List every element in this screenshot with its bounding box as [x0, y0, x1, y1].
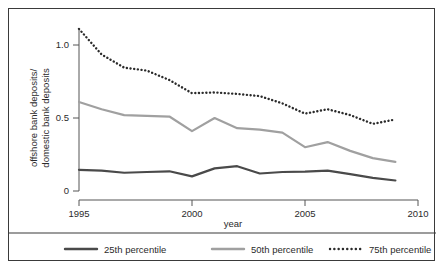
series-line-25th-percentile [79, 166, 395, 180]
x-tick-label: 2005 [294, 208, 315, 219]
y-axis-title-line2: domestic bank deposits [40, 68, 51, 168]
x-tick-group: 1995200020052010 [68, 200, 428, 219]
chart-figure: 00.51.0 1995200020052010 offshore bank d… [0, 0, 445, 272]
y-tick-label: 0 [64, 185, 69, 196]
y-tick-label: 0.5 [56, 112, 69, 123]
series-line-75th-percentile [79, 29, 395, 124]
series-line-50th-percentile [79, 102, 395, 162]
legend-label: 50th percentile [251, 244, 313, 255]
chart-legend: 25th percentile50th percentile75th perce… [65, 244, 431, 255]
x-tick-label: 2000 [181, 208, 202, 219]
y-axis-title-line1: offshore bank deposits/ [28, 69, 39, 167]
x-tick-label: 2010 [407, 208, 428, 219]
y-tick-label: 1.0 [56, 39, 69, 50]
legend-label: 75th percentile [369, 244, 431, 255]
data-series-group [79, 29, 395, 181]
y-axis-title: offshore bank deposits/ domestic bank de… [28, 68, 51, 168]
line-chart: 00.51.0 1995200020052010 offshore bank d… [0, 0, 445, 272]
x-tick-label: 1995 [68, 208, 89, 219]
legend-label: 25th percentile [104, 244, 166, 255]
y-tick-group: 00.51.0 [56, 39, 79, 196]
x-axis-title: year [224, 218, 242, 229]
